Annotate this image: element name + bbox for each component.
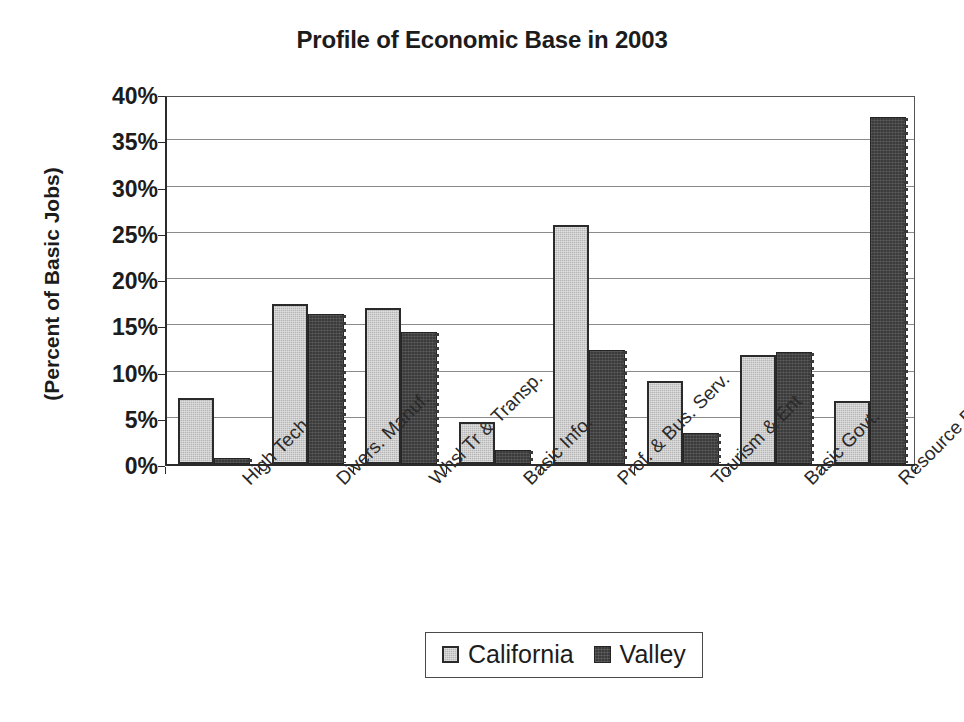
bar-california [178,398,214,464]
bar-valley [589,350,625,464]
economic-base-bar-chart: Profile of Economic Base in 2003 (Percen… [0,0,964,722]
gridline [167,232,914,233]
x-axis-category-label: Prof. & Bus. Serv. [613,474,629,490]
y-axis-tick-mark [158,189,165,190]
y-axis-tick-mark [158,142,165,143]
y-axis-tick-label: 10% [86,360,158,387]
legend-swatch-valley-icon [594,646,611,663]
legend-swatch-california-icon [442,646,459,663]
bar-valley [308,314,344,464]
y-axis-tick-mark [158,96,165,97]
y-axis-tick-label: 5% [86,406,158,433]
y-axis-tick-label: 40% [86,83,158,110]
y-axis-tick-label: 15% [86,314,158,341]
chart-legend: California Valley [425,632,703,678]
legend-item-california[interactable]: California [442,640,574,669]
x-axis-tick-mark [165,467,166,474]
x-axis-category-label: Resource Based [894,474,910,490]
bar-valley [495,450,531,464]
x-axis-category-label: Tourism & Ent [707,474,723,490]
y-axis-tick-label: 30% [86,175,158,202]
bar-valley [214,458,250,464]
y-axis-title: (Percent of Basic Jobs) [40,84,64,484]
y-axis-tick-label: 25% [86,221,158,248]
legend-label-valley: Valley [620,640,686,669]
y-axis-tick-mark [158,466,165,467]
gridline [167,139,914,140]
chart-title: Profile of Economic Base in 2003 [0,26,964,54]
legend-item-valley[interactable]: Valley [594,640,686,669]
plot-area [165,96,915,466]
legend-label-california: California [468,640,574,669]
y-axis-tick-mark [158,281,165,282]
y-axis-tick-label: 20% [86,268,158,295]
bar-valley [683,433,719,464]
x-axis-category-label: High Tech [238,474,254,490]
y-axis-tick-mark [158,374,165,375]
x-axis-category-label: Divers. Manuf. [332,474,348,490]
y-axis-tick-label: 0% [86,453,158,480]
y-axis-tick-label: 35% [86,129,158,156]
y-axis-tick-mark [158,327,165,328]
x-axis-category-labels: High TechDivers. Manuf.Whsl Tr & Transp.… [165,474,915,624]
gridline [167,186,914,187]
x-axis-category-label: Basic Govt. [800,474,816,490]
x-axis-category-label: Basic Info. [519,474,535,490]
gridline [167,278,914,279]
y-axis-tick-mark [158,420,165,421]
x-axis-category-label: Whsl Tr & Transp. [425,474,441,490]
y-axis-tick-mark [158,235,165,236]
y-axis-tick-labels: 0%5%10%15%20%25%30%35%40% [80,96,158,466]
